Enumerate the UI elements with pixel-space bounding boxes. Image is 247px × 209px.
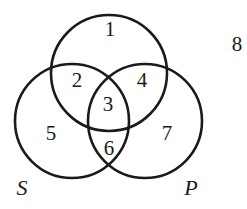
region-5-label: 5 bbox=[46, 121, 57, 145]
region-8-label: 8 bbox=[232, 32, 243, 56]
venn-diagram: 1 2 3 4 5 6 7 8 S P bbox=[0, 0, 247, 209]
region-6-label: 6 bbox=[104, 136, 115, 160]
region-2-label: 2 bbox=[72, 68, 83, 92]
s-set-label: S bbox=[17, 175, 28, 200]
region-4-label: 4 bbox=[137, 68, 148, 92]
region-3-label: 3 bbox=[103, 92, 114, 116]
region-1-label: 1 bbox=[105, 17, 116, 41]
region-7-label: 7 bbox=[162, 121, 173, 145]
p-set-label: P bbox=[183, 175, 197, 200]
